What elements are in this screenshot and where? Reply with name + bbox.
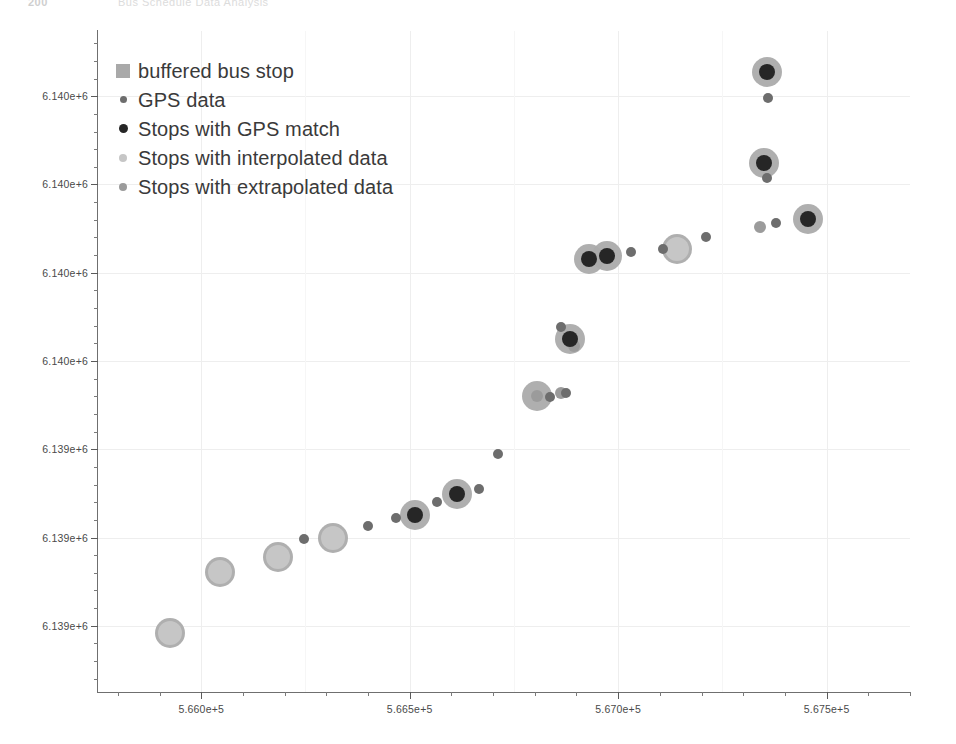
- y-tick-label-4: 6.139e+6: [4, 443, 88, 455]
- data-point: [493, 449, 503, 459]
- x-tick-minor: [868, 692, 869, 696]
- x-tick-minor: [660, 692, 661, 696]
- y-tick-label-5: 6.139e+6: [4, 532, 88, 544]
- y-tick-4: [91, 449, 98, 450]
- x-tick-minor: [535, 692, 536, 696]
- y-tick-label-wrap-1: 6.140e+6: [0, 178, 88, 190]
- y-tick-minor: [94, 679, 98, 680]
- legend-item-1[interactable]: GPS data: [108, 85, 508, 114]
- y-tick-minor: [94, 573, 98, 574]
- y-tick-minor: [94, 167, 98, 168]
- y-tick-label-1: 6.140e+6: [4, 178, 88, 190]
- x-tick-minor: [243, 692, 244, 696]
- legend-label: Stops with extrapolated data: [138, 177, 393, 197]
- y-tick-minor: [94, 590, 98, 591]
- data-point: [449, 486, 465, 502]
- x-tick-minor: [493, 692, 494, 696]
- y-tick-minor: [94, 290, 98, 291]
- y-tick-label-2: 6.140e+6: [4, 267, 88, 279]
- x-tick-minor: [285, 692, 286, 696]
- legend-dot-icon: [119, 124, 128, 133]
- page-number: 200: [28, 0, 48, 8]
- data-point: [762, 173, 772, 183]
- y-tick-label-6: 6.139e+6: [4, 620, 88, 632]
- data-point: [771, 218, 781, 228]
- x-tick-0: [201, 692, 202, 699]
- legend-item-3[interactable]: Stops with interpolated data: [108, 143, 508, 172]
- y-tick-minor: [94, 432, 98, 433]
- legend-item-0[interactable]: buffered bus stop: [108, 56, 508, 85]
- y-tick-minor: [94, 643, 98, 644]
- data-point: [763, 93, 773, 103]
- data-point: [556, 322, 566, 332]
- data-point: [581, 251, 597, 267]
- y-tick-minor: [94, 79, 98, 80]
- y-tick-label-3: 6.140e+6: [4, 355, 88, 367]
- legend-square-swatch-icon: [116, 64, 130, 78]
- data-point: [363, 521, 373, 531]
- y-tick-label-wrap-0: 6.140e+6: [0, 90, 88, 102]
- legend-marker-slot: [108, 96, 138, 103]
- y-tick-minor: [94, 308, 98, 309]
- y-tick-5: [91, 538, 98, 539]
- x-tick-1: [410, 692, 411, 699]
- data-point: [321, 526, 345, 550]
- x-tick-3: [827, 692, 828, 699]
- y-tick-minor: [94, 485, 98, 486]
- gridline-vertical-3: [827, 31, 828, 692]
- y-tick-minor: [94, 237, 98, 238]
- y-tick-minor: [94, 43, 98, 44]
- data-point: [626, 247, 636, 257]
- y-tick-minor: [94, 202, 98, 203]
- gridline-vertical-minor-1: [514, 31, 515, 692]
- y-tick-label-wrap-4: 6.139e+6: [0, 443, 88, 455]
- gridline-horizontal-4: [98, 449, 910, 450]
- data-point: [474, 484, 484, 494]
- x-tick-minor: [451, 692, 452, 696]
- x-tick-minor: [368, 692, 369, 696]
- x-tick-minor: [910, 692, 911, 696]
- legend-label: Stops with interpolated data: [138, 148, 388, 168]
- y-tick-label-wrap-5: 6.139e+6: [0, 532, 88, 544]
- y-tick-minor: [94, 114, 98, 115]
- x-tick-minor: [785, 692, 786, 696]
- gridline-vertical-2: [618, 31, 619, 692]
- x-axis-spine: [97, 692, 911, 693]
- legend-dot-icon: [119, 183, 127, 191]
- legend-item-2[interactable]: Stops with GPS match: [108, 114, 508, 143]
- y-tick-minor: [94, 396, 98, 397]
- y-tick-label-wrap-2: 6.140e+6: [0, 267, 88, 279]
- y-tick-minor: [94, 255, 98, 256]
- x-tick-2: [618, 692, 619, 699]
- x-tick-minor: [576, 692, 577, 696]
- x-tick-label-3: 5.675e+5: [782, 703, 872, 715]
- legend-dot-icon: [120, 96, 127, 103]
- chart-canvas: 200 Bus Schedule Data Analysis 6.140e+66…: [0, 0, 956, 744]
- x-tick-minor: [118, 692, 119, 696]
- y-tick-minor: [94, 502, 98, 503]
- y-tick-2: [91, 273, 98, 274]
- y-tick-minor: [94, 149, 98, 150]
- y-tick-3: [91, 361, 98, 362]
- y-tick-label-wrap-6: 6.139e+6: [0, 620, 88, 632]
- legend-marker-slot: [108, 124, 138, 133]
- legend-label: Stops with GPS match: [138, 119, 340, 139]
- y-tick-minor: [94, 608, 98, 609]
- y-tick-minor: [94, 220, 98, 221]
- legend-marker-slot: [108, 154, 138, 162]
- y-tick-minor: [94, 520, 98, 521]
- gridline-horizontal-2: [98, 273, 910, 274]
- x-tick-minor: [702, 692, 703, 696]
- legend-label: GPS data: [138, 90, 226, 110]
- data-point: [754, 221, 766, 233]
- y-tick-minor: [94, 467, 98, 468]
- y-tick-0: [91, 96, 98, 97]
- y-tick-minor: [94, 379, 98, 380]
- legend-item-4[interactable]: Stops with extrapolated data: [108, 172, 508, 201]
- gridline-horizontal-3: [98, 361, 910, 362]
- x-tick-label-1: 5.665e+5: [365, 703, 455, 715]
- gridline-horizontal-6: [98, 626, 910, 627]
- x-tick-label-0: 5.660e+5: [156, 703, 246, 715]
- data-point: [432, 497, 442, 507]
- data-point: [299, 534, 309, 544]
